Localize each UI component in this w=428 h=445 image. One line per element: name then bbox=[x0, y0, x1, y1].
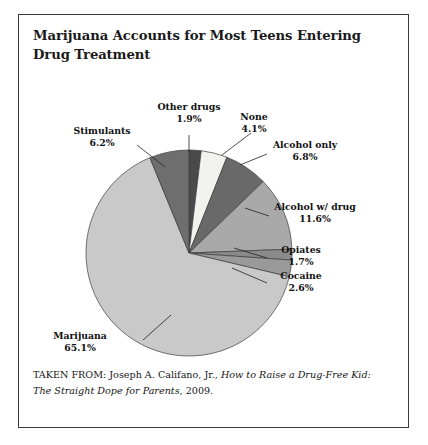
leader-none bbox=[222, 133, 251, 155]
citation-prefix: TAKEN FROM: Joseph A. Califano, Jr., bbox=[33, 369, 221, 380]
citation-suffix: , 2009. bbox=[180, 385, 214, 396]
slice-label-marijuana: Marijuana 65.1% bbox=[37, 330, 123, 353]
pie-slices bbox=[86, 150, 292, 356]
slice-label-other-drugs: Other drugs 1.9% bbox=[145, 101, 233, 124]
slice-label-stimulants: Stimulants 6.2% bbox=[63, 125, 141, 148]
slice-label-alcohol-only: Alcohol only 6.8% bbox=[263, 139, 347, 162]
slice-label-opiates: Opiates 1.7% bbox=[271, 244, 331, 267]
slice-label-none: None 4.1% bbox=[225, 111, 283, 134]
slice-label-cocaine: Cocaine 2.6% bbox=[271, 270, 331, 293]
slice-label-alcohol-with-drug: Alcohol w/ drug 11.6% bbox=[267, 201, 363, 224]
source-citation: TAKEN FROM: Joseph A. Califano, Jr., How… bbox=[33, 367, 391, 398]
figure-container: Marijuana Accounts for Most Teens Enteri… bbox=[18, 14, 409, 428]
